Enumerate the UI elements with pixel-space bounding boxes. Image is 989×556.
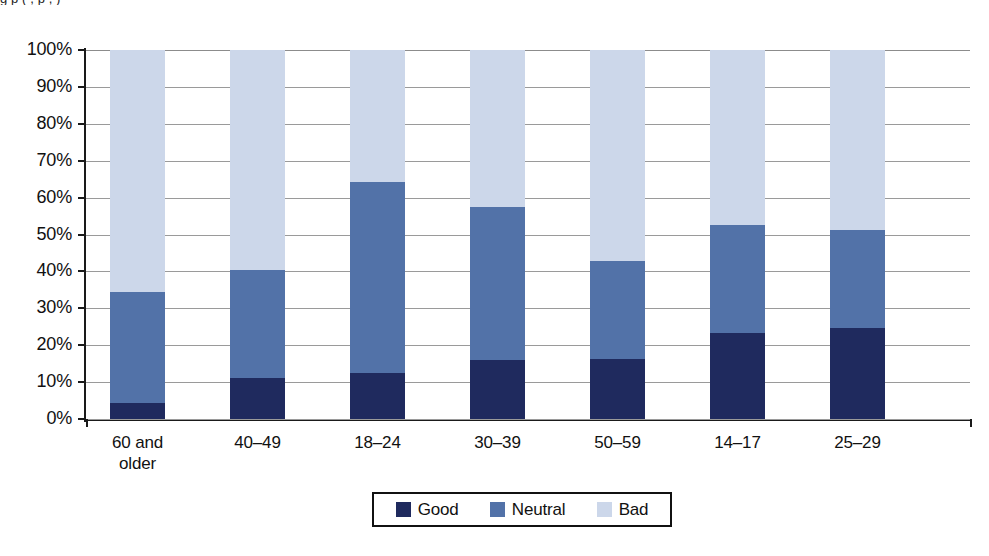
y-axis-label-50: 50% xyxy=(0,224,72,245)
bar-segment-bad[interactable] xyxy=(830,50,885,230)
legend-entry-good[interactable]: Good xyxy=(396,500,459,520)
bar-segment-neutral[interactable] xyxy=(590,261,645,359)
bar-segment-neutral[interactable] xyxy=(350,182,405,373)
legend-swatch-neutral-icon xyxy=(490,502,505,517)
bar-segment-bad[interactable] xyxy=(350,50,405,182)
bar-segment-neutral[interactable] xyxy=(470,207,525,360)
stacked-bar-chart: g p ( , p , ) 0%10%20%30%40%50%60%70%80%… xyxy=(0,0,989,556)
x-axis-label-line1: 50–59 xyxy=(548,432,688,453)
y-axis-label-10: 10% xyxy=(0,371,72,392)
x-axis-label-line1: 14–17 xyxy=(668,432,808,453)
legend-label: Neutral xyxy=(512,500,565,520)
y-axis-label-60: 60% xyxy=(0,187,72,208)
bar-segment-good[interactable] xyxy=(470,360,525,419)
x-axis-label: 50–59 xyxy=(548,432,688,453)
x-axis-label: 40–49 xyxy=(188,432,328,453)
legend-swatch-bad-icon xyxy=(597,502,612,517)
bar-segment-good[interactable] xyxy=(830,328,885,419)
bar-segment-neutral[interactable] xyxy=(710,225,765,333)
bar-stack[interactable] xyxy=(590,50,645,419)
bar-stack[interactable] xyxy=(230,50,285,419)
bar-segment-good[interactable] xyxy=(590,359,645,419)
bar-segment-bad[interactable] xyxy=(230,50,285,270)
bar-segment-good[interactable] xyxy=(110,403,165,419)
x-axis-tick-1 xyxy=(970,419,972,427)
y-axis-label-0: 0% xyxy=(0,408,72,429)
bar-segment-bad[interactable] xyxy=(590,50,645,261)
bar-stack[interactable] xyxy=(710,50,765,419)
x-axis-tick-0 xyxy=(86,419,88,427)
legend-label: Good xyxy=(418,500,459,520)
y-axis-label-70: 70% xyxy=(0,150,72,171)
bar-segment-neutral[interactable] xyxy=(830,230,885,328)
legend-label: Bad xyxy=(619,500,649,520)
bar-stack[interactable] xyxy=(470,50,525,419)
x-axis-label: 60 andolder xyxy=(68,432,208,474)
clipped-title-fragment: g p ( , p , ) xyxy=(0,0,989,5)
x-axis-label: 30–39 xyxy=(428,432,568,453)
x-axis-label-line1: 25–29 xyxy=(788,432,928,453)
bar-segment-bad[interactable] xyxy=(710,50,765,225)
bar-segment-good[interactable] xyxy=(230,378,285,419)
x-axis-label: 14–17 xyxy=(668,432,808,453)
gridline-0 xyxy=(86,419,970,420)
bar-segment-good[interactable] xyxy=(350,373,405,419)
x-axis-label: 25–29 xyxy=(788,432,928,453)
x-axis-label-line1: 60 and xyxy=(68,432,208,453)
chart-legend: GoodNeutralBad xyxy=(372,492,672,527)
bar-segment-neutral[interactable] xyxy=(230,270,285,378)
y-axis-label-100: 100% xyxy=(0,39,72,60)
bar-stack[interactable] xyxy=(110,50,165,419)
y-axis-label-20: 20% xyxy=(0,334,72,355)
x-axis-label: 18–24 xyxy=(308,432,448,453)
y-axis-label-90: 90% xyxy=(0,76,72,97)
legend-entry-neutral[interactable]: Neutral xyxy=(490,500,565,520)
bar-segment-good[interactable] xyxy=(710,333,765,419)
legend-swatch-good-icon xyxy=(396,502,411,517)
bar-stack[interactable] xyxy=(830,50,885,419)
x-axis-label-line2: older xyxy=(68,453,208,474)
y-axis-label-30: 30% xyxy=(0,297,72,318)
x-axis-label-line1: 40–49 xyxy=(188,432,328,453)
y-axis-label-40: 40% xyxy=(0,260,72,281)
bar-segment-bad[interactable] xyxy=(110,50,165,292)
bar-segment-neutral[interactable] xyxy=(110,292,165,403)
bar-segment-bad[interactable] xyxy=(470,50,525,207)
legend-entry-bad[interactable]: Bad xyxy=(597,500,649,520)
x-axis-label-line1: 18–24 xyxy=(308,432,448,453)
x-axis-label-line1: 30–39 xyxy=(428,432,568,453)
bar-stack[interactable] xyxy=(350,50,405,419)
y-axis-label-80: 80% xyxy=(0,113,72,134)
plot-area xyxy=(86,50,970,419)
